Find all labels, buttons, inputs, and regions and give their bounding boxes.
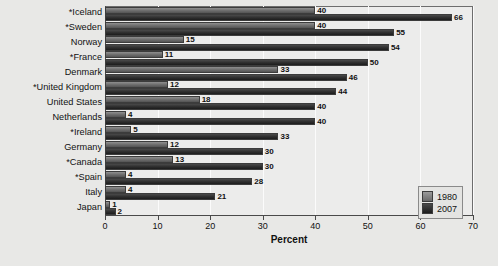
- legend-label-2007: 2007: [437, 204, 457, 214]
- bar-value-label: 12: [170, 81, 179, 88]
- bar-value-label: 4: [128, 171, 132, 178]
- x-tick: [210, 216, 211, 220]
- bar-value-label: 15: [186, 36, 195, 43]
- x-tick-label: 40: [300, 221, 330, 231]
- category-label: *Sweden: [2, 22, 102, 32]
- x-tick-label: 10: [143, 221, 173, 231]
- bar-1980: [105, 201, 110, 208]
- legend-item-2007: 2007: [422, 203, 457, 214]
- gridline: [420, 6, 421, 215]
- bar-value-label: 2: [118, 208, 122, 215]
- bar-value-label: 30: [265, 148, 274, 155]
- x-tick-label: 60: [405, 221, 435, 231]
- bar-2007: [105, 44, 389, 51]
- category-label: Italy: [2, 187, 102, 197]
- bar-1980: [105, 186, 126, 193]
- bar-value-label: 21: [217, 193, 226, 200]
- legend-label-1980: 1980: [437, 192, 457, 202]
- bar-2007: [105, 14, 452, 21]
- x-tick: [263, 216, 264, 220]
- bar-value-label: 66: [454, 14, 463, 21]
- x-tick-label: 30: [248, 221, 278, 231]
- bar-1980: [105, 96, 200, 103]
- bar-1980: [105, 141, 168, 148]
- category-label: *Canada: [2, 157, 102, 167]
- x-tick: [315, 216, 316, 220]
- bar-2007: [105, 88, 336, 95]
- category-label: *Iceland: [2, 7, 102, 17]
- gridline: [368, 6, 369, 215]
- bar-value-label: 40: [317, 7, 326, 14]
- bar-1980: [105, 126, 131, 133]
- bar-1980: [105, 156, 173, 163]
- category-label: *Ireland: [2, 127, 102, 137]
- x-tick: [473, 216, 474, 220]
- bar-value-label: 40: [317, 103, 326, 110]
- bar-2007: [105, 208, 116, 215]
- x-tick-label: 0: [90, 221, 120, 231]
- bar-1980: [105, 36, 184, 43]
- category-axis: *Iceland*SwedenNorway*FranceDenmark*Unit…: [0, 0, 102, 215]
- bar-value-label: 40: [317, 118, 326, 125]
- bar-value-label: 1: [112, 201, 116, 208]
- bar-2007: [105, 59, 368, 66]
- bar-value-label: 46: [349, 74, 358, 81]
- bar-value-label: 33: [280, 66, 289, 73]
- bar-value-label: 44: [338, 88, 347, 95]
- bar-1980: [105, 22, 315, 29]
- bar-1980: [105, 81, 168, 88]
- x-tick-label: 70: [458, 221, 488, 231]
- bar-value-label: 54: [391, 44, 400, 51]
- legend: 1980 2007: [418, 186, 463, 219]
- bar-1980: [105, 66, 278, 73]
- x-tick-label: 20: [195, 221, 225, 231]
- category-label: *France: [2, 52, 102, 62]
- bar-1980: [105, 51, 163, 58]
- bar-1980: [105, 111, 126, 118]
- bar-value-label: 33: [280, 133, 289, 140]
- bar-value-label: 30: [265, 163, 274, 170]
- bar-1980: [105, 171, 126, 178]
- bar-value-label: 12: [170, 141, 179, 148]
- bar-value-label: 40: [317, 22, 326, 29]
- x-tick: [368, 216, 369, 220]
- category-label: Japan: [2, 202, 102, 212]
- bar-value-label: 5: [133, 126, 137, 133]
- bar-2007: [105, 178, 252, 185]
- legend-item-1980: 1980: [422, 191, 457, 202]
- bar-value-label: 13: [175, 156, 184, 163]
- x-tick-label: 50: [353, 221, 383, 231]
- gridline: [315, 6, 316, 215]
- bar-2007: [105, 74, 347, 81]
- bar-value-label: 4: [128, 111, 132, 118]
- bar-2007: [105, 133, 278, 140]
- bar-chart: *Iceland*SwedenNorway*FranceDenmark*Unit…: [0, 0, 498, 266]
- category-label: Denmark: [2, 67, 102, 77]
- category-label: United States: [2, 97, 102, 107]
- category-label: Netherlands: [2, 112, 102, 122]
- gridline: [473, 6, 474, 215]
- category-label: Norway: [2, 37, 102, 47]
- legend-swatch-2007: [422, 203, 433, 214]
- x-axis-title: Percent: [105, 234, 473, 245]
- bar-value-label: 4: [128, 186, 132, 193]
- bar-value-label: 50: [370, 59, 379, 66]
- bar-value-label: 18: [202, 96, 211, 103]
- bar-2007: [105, 103, 315, 110]
- category-label: *United Kingdom: [2, 82, 102, 92]
- bar-value-label: 28: [254, 178, 263, 185]
- category-label: Germany: [2, 142, 102, 152]
- bar-2007: [105, 193, 215, 200]
- category-label: *Spain: [2, 172, 102, 182]
- x-tick: [158, 216, 159, 220]
- bar-1980: [105, 7, 315, 14]
- bar-value-label: 55: [396, 29, 405, 36]
- legend-swatch-1980: [422, 191, 433, 202]
- x-tick: [105, 216, 106, 220]
- bar-value-label: 11: [165, 51, 173, 58]
- bar-2007: [105, 29, 394, 36]
